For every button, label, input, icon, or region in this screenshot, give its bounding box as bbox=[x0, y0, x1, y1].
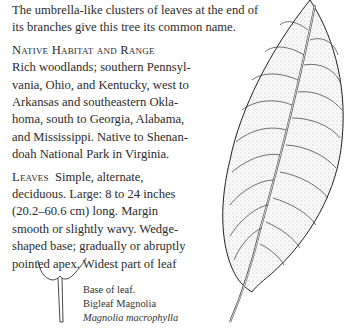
caption-line: Base of leaf. bbox=[83, 283, 178, 297]
caption-line: Bigleaf Magnolia bbox=[83, 297, 178, 311]
leaf-base-illustration bbox=[30, 258, 90, 328]
caption-species: Magnolia macrophylla bbox=[83, 311, 178, 325]
magnolia-leaf-illustration bbox=[180, 0, 344, 330]
figure-caption: Base of leaf. Bigleaf Magnolia Magnolia … bbox=[83, 283, 178, 325]
leaves-heading: Leaves bbox=[12, 170, 49, 184]
